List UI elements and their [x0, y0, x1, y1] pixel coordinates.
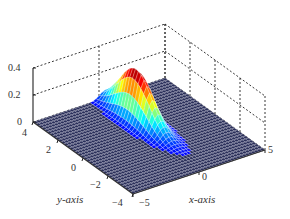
y-tick-2: 2 [46, 144, 51, 155]
surface-mesh [33, 68, 265, 194]
x-tick-neg5: −5 [139, 197, 150, 208]
x-tick-5: 5 [268, 144, 273, 155]
y-tick-4: 4 [22, 127, 27, 138]
z-tick-04: 0.4 [8, 62, 21, 73]
y-tick-neg2: −2 [90, 179, 101, 190]
y-tick-0: 0 [71, 162, 76, 173]
x-tick-0: 0 [202, 171, 207, 182]
x-axis-label: x-axis [188, 193, 215, 205]
surface-plot: 0.4 0.2 0 4 2 0 −2 −4 −5 0 5 y-axis x-ax… [0, 0, 290, 219]
y-axis-label: y-axis [56, 193, 83, 205]
z-tick-0: 0 [17, 116, 22, 127]
y-tick-neg4: −4 [112, 197, 123, 208]
z-tick-02: 0.2 [8, 89, 21, 100]
